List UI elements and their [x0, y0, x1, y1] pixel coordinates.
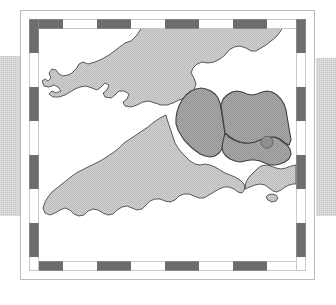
border-dash-bottom [29, 261, 306, 271]
left-decorative-band [0, 56, 22, 216]
border-dash-right [296, 19, 306, 271]
map-graphic [39, 29, 296, 261]
area-wiltshire-highlight-north[interactable] [221, 91, 291, 145]
right-decorative-band [316, 58, 336, 216]
border-dash-top [29, 19, 306, 29]
map-viewport[interactable] [39, 29, 296, 261]
border-dash-left [29, 19, 39, 271]
figure-canvas [0, 0, 336, 305]
